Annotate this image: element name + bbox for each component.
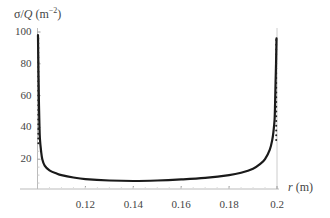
y-axis-label: σ/Q (m−2)	[14, 6, 61, 22]
x-tick-label: 0.14	[118, 198, 148, 210]
y-tick-label: 80	[2, 57, 32, 69]
y-tick-label: 20	[2, 152, 32, 164]
sigma-over-q-curve	[38, 35, 277, 181]
x-axis-label: r (m)	[288, 180, 313, 195]
x-tick-label: 0.18	[214, 198, 244, 210]
data-series	[37, 35, 277, 181]
y-tick-label: 60	[2, 89, 32, 101]
axes	[20, 28, 279, 189]
chart: σ/Q (m−2) r (m) 20406080100 0.120.140.16…	[0, 0, 330, 218]
plot-area	[0, 0, 330, 218]
x-tick-label: 0.12	[70, 198, 100, 210]
y-tick-label: 100	[2, 25, 32, 37]
y-tick-label: 40	[2, 120, 32, 132]
x-tick-label: 0.16	[166, 198, 196, 210]
x-tick-label: 0.2	[262, 198, 292, 210]
